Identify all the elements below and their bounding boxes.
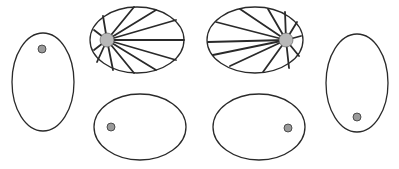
dot-icon <box>284 124 292 132</box>
dot-icon <box>38 45 46 53</box>
hub-icon <box>100 33 114 47</box>
bottom-right-oval <box>213 94 305 160</box>
left-vertical-oval <box>12 33 74 131</box>
right-vertical-oval <box>326 34 388 132</box>
top-right-rayed-oval <box>207 7 303 73</box>
dot-icon <box>107 123 115 131</box>
dot-icon <box>353 113 361 121</box>
hub-icon <box>279 33 293 47</box>
top-left-rayed-oval <box>90 7 184 73</box>
ellipse-diagram <box>0 0 399 169</box>
bottom-left-oval <box>94 94 186 160</box>
